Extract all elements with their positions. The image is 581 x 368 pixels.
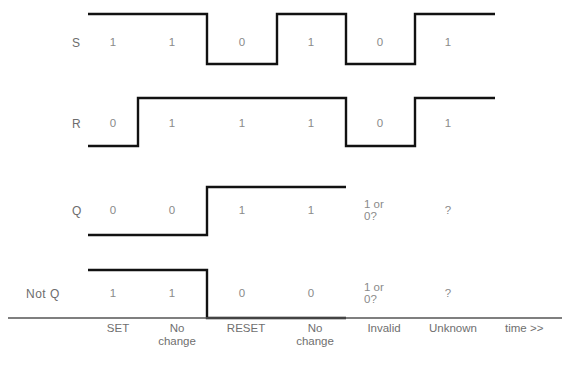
phase-label-2: No change	[137, 322, 217, 348]
value-not-q-col3: 0	[222, 287, 262, 299]
signal-label-not-q: Not Q	[26, 287, 60, 301]
value-q-col3: 1	[222, 204, 262, 216]
waveform-layer	[0, 0, 581, 368]
value-q-col6: ?	[428, 204, 468, 216]
value-not-q-col2: 1	[152, 287, 192, 299]
value-s-col3: 0	[222, 36, 262, 48]
value-r-col3: 1	[222, 117, 262, 129]
phase-label-4: No change	[275, 322, 355, 348]
value-s-col6: 1	[428, 36, 468, 48]
signal-label-s: S	[72, 36, 81, 50]
value-q-col5: 1 or0?	[364, 198, 408, 222]
value-s-col4: 1	[291, 36, 331, 48]
phase-label-3: RESET	[206, 322, 286, 335]
value-r-col5: 0	[360, 117, 400, 129]
value-not-q-col4: 0	[291, 287, 331, 299]
value-q-col4: 1	[291, 204, 331, 216]
value-q-col1: 0	[93, 204, 133, 216]
value-r-col6: 1	[428, 117, 468, 129]
value-not-q-col1: 1	[93, 287, 133, 299]
phase-label-6: Unknown	[413, 322, 493, 335]
value-s-col1: 1	[93, 36, 133, 48]
value-not-q-col5: 1 or0?	[364, 281, 408, 305]
value-s-col5: 0	[360, 36, 400, 48]
value-r-col4: 1	[291, 117, 331, 129]
phase-label-5: Invalid	[344, 322, 424, 335]
signal-label-q: Q	[72, 204, 82, 218]
time-axis-label: time >>	[505, 322, 543, 334]
timing-diagram-canvas: S R Q Not Q 11010101110100111 or0??11001…	[0, 0, 581, 368]
value-q-col2: 0	[152, 204, 192, 216]
signal-label-r: R	[72, 117, 81, 131]
value-not-q-col6: ?	[428, 287, 468, 299]
value-r-col1: 0	[93, 117, 133, 129]
value-r-col2: 1	[152, 117, 192, 129]
value-s-col2: 1	[152, 36, 192, 48]
